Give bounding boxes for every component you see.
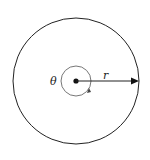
polar-diagram: θ r xyxy=(0,0,150,160)
radius-label: r xyxy=(103,69,109,82)
radius-arrowhead-icon xyxy=(131,78,139,85)
theta-label: θ xyxy=(50,75,57,88)
